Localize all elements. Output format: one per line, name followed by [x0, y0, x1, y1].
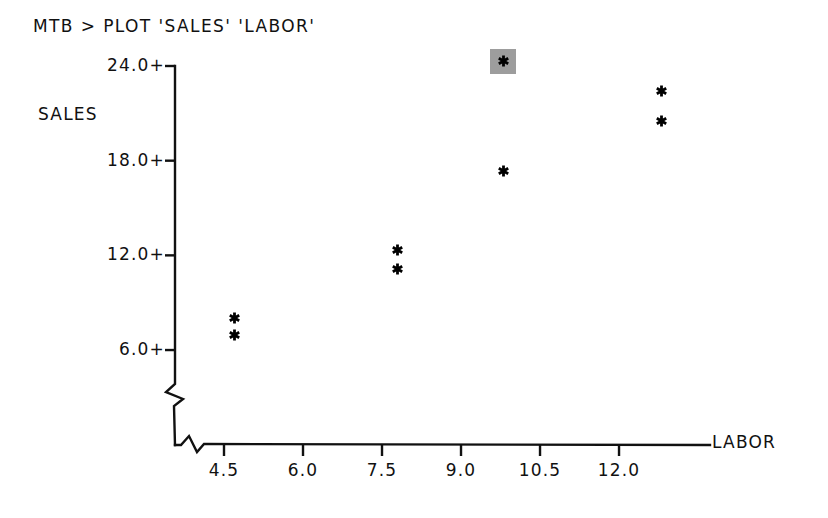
minitab-plot-screen: MTB > PLOT 'SALES' 'LABOR' 24.0+18.0+12.… — [0, 0, 828, 518]
x-axis-tick-label: 10.5 — [495, 460, 585, 480]
y-axis-tick-label: 12.0+ — [40, 244, 165, 264]
data-point-marker[interactable] — [228, 312, 241, 325]
x-axis-tick-label: 6.0 — [258, 460, 348, 480]
x-axis-line — [175, 436, 710, 452]
x-axis-tick-label: 12.0 — [574, 460, 664, 480]
asterisk-icon — [498, 166, 509, 177]
data-point-marker[interactable] — [228, 329, 241, 342]
y-axis-title: SALES — [38, 104, 98, 124]
asterisk-icon — [498, 55, 509, 66]
y-axis-tick-label: 18.0+ — [40, 150, 165, 170]
data-point-marker[interactable] — [497, 165, 510, 178]
x-axis-tick-label: 4.5 — [179, 460, 269, 480]
x-axis-tick-label: 7.5 — [337, 460, 427, 480]
x-axis-title: LABOR — [712, 432, 776, 452]
data-point-marker[interactable] — [655, 85, 668, 98]
scatter-plot: 24.0+18.0+12.0+6.0+ 4.56.07.59.010.512.0… — [0, 0, 828, 518]
asterisk-icon — [229, 313, 240, 324]
data-point-marker[interactable] — [655, 115, 668, 128]
asterisk-icon — [656, 115, 667, 126]
asterisk-icon — [229, 330, 240, 341]
data-point-marker[interactable] — [497, 55, 510, 68]
data-point-marker[interactable] — [391, 244, 404, 257]
asterisk-icon — [392, 264, 403, 275]
y-axis-tick-label: 6.0+ — [40, 339, 165, 359]
y-axis-tick-label: 24.0+ — [40, 55, 165, 75]
x-axis-tick-label: 9.0 — [416, 460, 506, 480]
asterisk-icon — [656, 85, 667, 96]
data-point-marker[interactable] — [391, 263, 404, 276]
asterisk-icon — [392, 245, 403, 256]
